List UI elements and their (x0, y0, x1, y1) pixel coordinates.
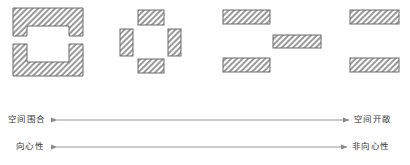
shape-group-4 (350, 10, 399, 72)
block-top-inverted-u (13, 8, 83, 36)
block-lower (350, 58, 399, 72)
block-upper-left (223, 10, 270, 24)
block-left (120, 29, 133, 56)
axis-label-centripetal-right: 非向心性 (352, 141, 389, 152)
block-upper (350, 10, 399, 24)
shape-group-3 (223, 10, 321, 72)
block-bottom-u (13, 44, 83, 76)
diagram-canvas (0, 0, 410, 165)
block-top (138, 10, 164, 25)
axis-label-enclosure-left: 空间围合 (8, 114, 45, 125)
block-middle (273, 35, 321, 48)
block-right (168, 29, 181, 56)
shape-group-1 (13, 8, 83, 76)
axis-label-centripetal-left: 向心性 (16, 141, 44, 152)
block-lower-left (223, 58, 270, 72)
diagram-figure: 空间围合 空间开敞 向心性 非向心性 (0, 0, 410, 165)
shape-group-2 (120, 10, 181, 73)
axis-label-enclosure-right: 空间开敞 (354, 114, 391, 125)
block-bottom (138, 59, 164, 73)
